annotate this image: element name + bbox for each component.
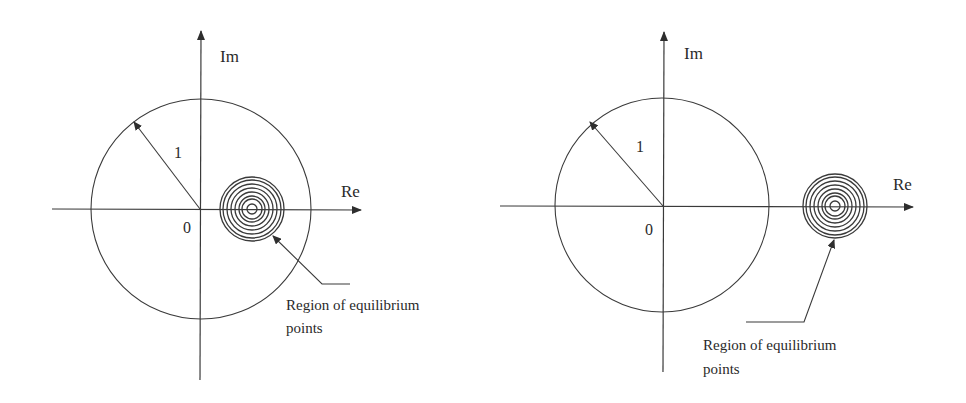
callout-leader	[746, 240, 834, 322]
real-axis	[52, 209, 361, 210]
imag-axis-label: Im	[220, 47, 239, 66]
imag-axis	[663, 32, 664, 372]
real-axis	[500, 206, 913, 207]
radius-label: 1	[636, 138, 644, 155]
callout-text-line1: Region of equilibrium	[703, 337, 837, 353]
figure-canvas: Im Re 0 1 Region of equilibrium points	[0, 0, 966, 403]
origin-label: 0	[183, 219, 191, 236]
right-panel: Im Re 0 1 Region of equilibrium points	[500, 32, 913, 377]
real-axis-label: Re	[341, 182, 360, 201]
radius-arrow	[590, 122, 663, 206]
callout-text-line1: Region of equilibrium	[286, 297, 420, 313]
left-panel: Im Re 0 1 Region of equilibrium points	[52, 31, 420, 380]
origin-label: 0	[645, 221, 653, 238]
imag-axis-label: Im	[684, 44, 703, 63]
callout-leader	[273, 236, 350, 284]
callout-text-line2: points	[286, 320, 323, 336]
real-axis-label: Re	[893, 175, 912, 194]
equilibrium-region	[803, 174, 867, 238]
imag-axis	[200, 31, 201, 380]
radius-arrow	[134, 122, 200, 209]
callout-text-line2: points	[703, 361, 740, 377]
radius-label: 1	[174, 144, 182, 161]
